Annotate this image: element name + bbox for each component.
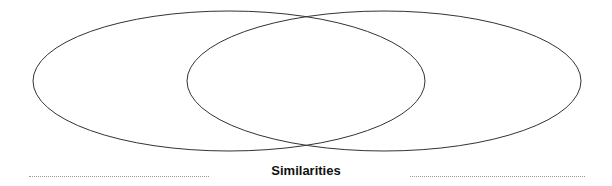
venn-diagram (0, 0, 612, 186)
right-write-line[interactable] (410, 176, 585, 177)
left-ellipse (33, 11, 425, 151)
right-ellipse (187, 11, 581, 151)
